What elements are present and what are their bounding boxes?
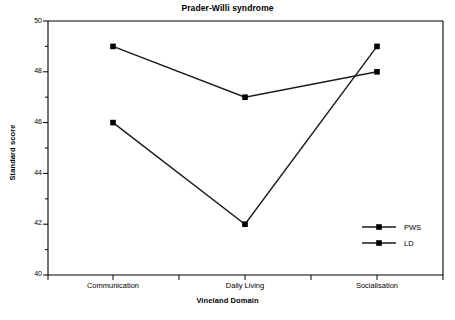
data-point-ld-communication (110, 120, 116, 126)
series-line-ld (110, 44, 380, 227)
clipped-caption-strip (0, 312, 455, 320)
axis-frame (48, 21, 443, 275)
chart-figure: Prader-Willi syndrome Standard score Vin… (0, 0, 455, 320)
legend-marker-ld (376, 240, 382, 246)
data-point-ld-daily-living (242, 221, 248, 227)
data-point-pws-socialisation (374, 69, 380, 75)
legend-sample-pws (362, 224, 396, 230)
legend-sample-ld (362, 240, 396, 246)
data-point-ld-socialisation (374, 44, 380, 50)
data-point-pws-communication (110, 44, 116, 50)
x-ticks (48, 275, 443, 280)
data-point-pws-daily-living (242, 94, 248, 100)
legend-marker-pws (376, 224, 382, 230)
series-line-pws (110, 44, 380, 100)
plot-area (0, 0, 455, 320)
